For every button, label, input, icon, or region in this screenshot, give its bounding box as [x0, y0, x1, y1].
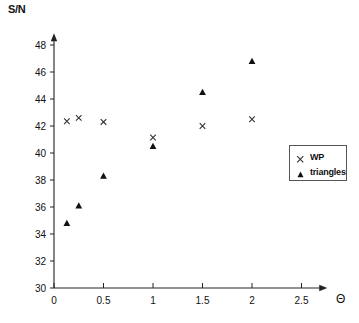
scatter-chart: S/N Θ 30323436384042444648 00.511.522.5 …: [0, 0, 359, 323]
triangle-marker-icon: [295, 166, 306, 177]
x-tick-label: 2: [249, 295, 255, 306]
legend-label-triangles: triangles: [310, 167, 346, 177]
x-marker-icon: [295, 151, 306, 162]
data-point-triangle-marker: [150, 143, 157, 149]
data-point-x-marker: [249, 116, 255, 122]
legend-item-wp: WP: [290, 149, 346, 164]
legend-item-triangles: triangles: [290, 164, 346, 179]
data-point-x-marker: [101, 119, 107, 125]
data-point-x-marker: [64, 118, 70, 124]
data-point-triangle-marker: [249, 58, 256, 64]
y-tick-label: 32: [35, 256, 47, 267]
data-point-x-marker: [200, 123, 206, 129]
x-tick-label: 2.5: [295, 295, 309, 306]
x-tick-label: 0: [51, 295, 57, 306]
y-tick-label: 34: [35, 229, 47, 240]
y-tick-label: 44: [35, 94, 47, 105]
y-tick-label: 48: [35, 40, 47, 51]
y-tick-label: 30: [35, 283, 47, 294]
data-point-x-marker: [76, 115, 82, 121]
data-point-triangle-marker: [199, 89, 206, 95]
x-tick-group: 00.511.522.5: [51, 283, 309, 306]
data-point-triangle-marker: [63, 220, 70, 226]
y-tick-label: 42: [35, 121, 47, 132]
axes-group: [51, 33, 327, 291]
y-tick-label: 38: [35, 175, 47, 186]
y-tick-label: 40: [35, 148, 47, 159]
x-tick-label: 1: [150, 295, 156, 306]
y-tick-label: 36: [35, 202, 47, 213]
legend-label-wp: WP: [310, 152, 324, 162]
data-points-group: [63, 58, 255, 226]
data-point-triangle-marker: [100, 173, 107, 179]
y-tick-label: 46: [35, 67, 47, 78]
x-tick-label: 1.5: [196, 295, 210, 306]
x-axis-arrow: [319, 285, 327, 291]
data-point-triangle-marker: [75, 202, 82, 208]
legend: WP triangles: [289, 145, 347, 181]
y-tick-group: 30323436384042444648: [35, 40, 54, 294]
y-axis-arrow: [51, 33, 57, 41]
data-point-x-marker: [150, 135, 156, 141]
x-tick-label: 0.5: [97, 295, 111, 306]
